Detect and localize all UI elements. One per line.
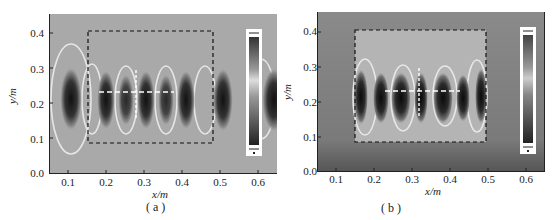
x-tick: 0.1	[324, 173, 348, 185]
x-tick: 0.6	[246, 176, 270, 188]
y-tick: 0.0	[291, 165, 317, 177]
x-tick: 0.2	[362, 173, 386, 185]
x-tick: 0.3	[400, 173, 424, 185]
panel-b: y/m 0.4 0.3 0.2 0.1 0.0	[277, 0, 554, 220]
x-tick: 0.2	[94, 176, 118, 188]
panel-a: y/m 0.4 0.3 0.2 0.1 0.0	[0, 0, 277, 220]
x-tick: 0.5	[208, 176, 232, 188]
x-tick: 0.4	[438, 173, 462, 185]
x-tick: 0.3	[132, 176, 156, 188]
x-tick: 0.5	[476, 173, 500, 185]
y-tick: 0.1	[291, 131, 317, 143]
y-tick: 0.3	[18, 63, 44, 75]
x-axis-label: x/m	[425, 185, 441, 197]
y-tick: 0.4	[291, 25, 317, 37]
panel-caption-a: ( a )	[146, 200, 165, 215]
panel-caption-b: ( b )	[381, 201, 401, 216]
y-tick: 0.3	[291, 61, 317, 73]
y-axis-label: y/m	[6, 88, 18, 104]
x-tick: 0.1	[56, 176, 80, 188]
x-tick: 0.6	[514, 173, 538, 185]
y-tick: 0.2	[291, 96, 317, 108]
x-tick: 0.4	[170, 176, 194, 188]
y-tick: 0.4	[18, 27, 44, 39]
heatmap-plot-a	[49, 14, 277, 174]
y-tick: 0.0	[18, 167, 44, 179]
y-tick: 0.1	[18, 133, 44, 145]
x-axis-label: x/m	[152, 188, 168, 200]
y-tick: 0.2	[18, 98, 44, 110]
heatmap-plot-b	[317, 12, 545, 172]
